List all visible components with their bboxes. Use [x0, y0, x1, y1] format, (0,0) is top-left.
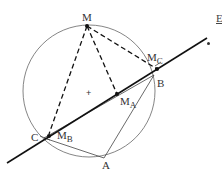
label-ma: MA	[120, 96, 136, 110]
label-a: A	[102, 160, 110, 171]
triangle-abc	[44, 75, 154, 158]
label-ma-sub: A	[130, 100, 137, 110]
perpendicular-to-ma	[87, 26, 117, 94]
point-m	[85, 24, 89, 28]
label-mb: MB	[57, 130, 73, 144]
point-ma	[115, 92, 119, 96]
label-b: B	[157, 78, 164, 89]
label-mc-sub: C	[157, 56, 163, 66]
label-mc-main: M	[147, 51, 157, 63]
label-mc: MC	[147, 52, 163, 66]
point-mc	[155, 67, 159, 71]
label-mb-sub: B	[67, 134, 73, 144]
cropped-edge-text: E	[216, 12, 222, 24]
bullet-icon	[207, 42, 210, 45]
label-ma-main: M	[120, 95, 130, 107]
label-c: C	[31, 132, 38, 143]
simson-line	[7, 38, 207, 163]
label-mb-main: M	[57, 129, 67, 141]
perpendicular-to-mb	[49, 26, 87, 134]
point-mb	[47, 134, 51, 138]
center-mark: +	[86, 88, 91, 98]
simson-line-diagram: +	[0, 0, 222, 171]
label-m: M	[82, 12, 92, 23]
